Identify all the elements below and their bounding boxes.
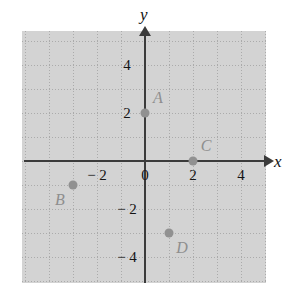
x-tick-label: 0 (141, 167, 149, 184)
y-axis-arrow-icon (139, 26, 151, 36)
y-tick-label: − 2 (117, 201, 137, 218)
y-tick-label: − 4 (117, 249, 137, 266)
x-axis-arrow-icon (264, 155, 274, 167)
x-axis-label: x (274, 152, 282, 172)
grid-line-vertical (97, 31, 98, 283)
point-label-c: C (201, 137, 212, 155)
data-point-c (189, 157, 198, 166)
y-axis-line (144, 33, 146, 283)
grid-line-vertical (169, 31, 170, 283)
grid-line-vertical (25, 31, 26, 283)
x-tick-label: 4 (237, 167, 245, 184)
point-label-a: A (153, 89, 163, 107)
grid-line-vertical (217, 31, 218, 283)
data-point-d (165, 229, 174, 238)
point-label-d: D (176, 239, 188, 257)
grid-line-vertical (73, 31, 74, 283)
x-tick-label: 2 (189, 167, 197, 184)
y-tick-label: 2 (123, 105, 131, 122)
grid-line-vertical (241, 31, 242, 283)
x-tick-label: − 2 (87, 167, 107, 184)
x-axis-line (24, 160, 268, 162)
y-axis-label: y (140, 5, 148, 25)
grid-line-vertical (49, 31, 50, 283)
data-point-b (69, 181, 78, 190)
point-label-b: B (55, 191, 65, 209)
grid-line-vertical (121, 31, 122, 283)
data-point-a (141, 109, 150, 118)
coordinate-plane-figure: x y − 202442− 2− 4 ABCD (0, 0, 295, 298)
y-tick-label: 4 (123, 57, 131, 74)
